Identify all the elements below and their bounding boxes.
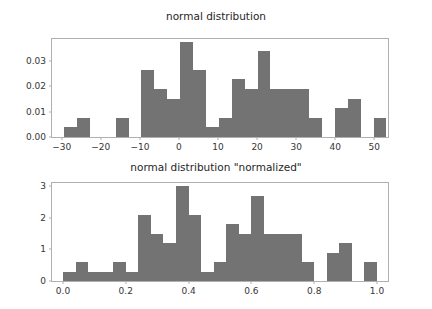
histogram-bar bbox=[245, 89, 258, 137]
x-tick-label: 0.8 bbox=[307, 286, 321, 296]
y-tick-mark bbox=[49, 249, 52, 250]
histogram-bar bbox=[76, 262, 89, 281]
histogram-bar bbox=[64, 127, 77, 137]
x-tick-label: −10 bbox=[130, 142, 149, 152]
histogram-bar bbox=[283, 89, 296, 137]
x-tick-mark bbox=[251, 281, 252, 284]
y-tick-label: 0 bbox=[40, 276, 46, 286]
x-tick-mark bbox=[188, 281, 189, 284]
histogram-bar bbox=[154, 89, 167, 137]
histogram-bar bbox=[277, 234, 290, 281]
histogram-bar bbox=[206, 127, 219, 137]
y-tick-mark bbox=[49, 60, 52, 61]
histogram-bar bbox=[327, 253, 340, 281]
x-tick-label: 30 bbox=[290, 142, 301, 152]
histogram-bar bbox=[335, 108, 348, 137]
histogram-bar bbox=[226, 224, 239, 281]
x-tick-mark bbox=[178, 137, 179, 140]
chart-title-bottom: normal distribution "normalized" bbox=[0, 161, 432, 173]
histogram-bar bbox=[258, 51, 271, 137]
x-tick-mark bbox=[314, 281, 315, 284]
x-tick-label: 0.0 bbox=[56, 286, 70, 296]
histogram-bar bbox=[189, 215, 202, 281]
x-tick-label: 0.6 bbox=[244, 286, 258, 296]
histogram-figure: normal distribution 0.000.010.020.03 −30… bbox=[0, 0, 432, 309]
x-tick-label: 0 bbox=[176, 142, 182, 152]
plot-area-top bbox=[52, 39, 388, 137]
x-tick-label: 40 bbox=[330, 142, 341, 152]
histogram-bar bbox=[232, 79, 245, 137]
histogram-bar bbox=[270, 89, 283, 137]
x-tick-mark bbox=[296, 137, 297, 140]
histogram-bar bbox=[101, 272, 114, 281]
x-tick-mark bbox=[61, 137, 62, 140]
histogram-bar bbox=[374, 118, 387, 137]
histogram-bar bbox=[302, 262, 315, 281]
x-tick-label: 10 bbox=[212, 142, 223, 152]
histogram-bar bbox=[88, 272, 101, 281]
histogram-bar bbox=[289, 234, 302, 281]
x-tick-label: 20 bbox=[251, 142, 262, 152]
histogram-bar bbox=[239, 234, 252, 281]
histogram-bars-bottom bbox=[52, 183, 388, 281]
x-tick-mark bbox=[139, 137, 140, 140]
plot-axes-top: 0.000.010.020.03 −30−20−1001020304050 bbox=[51, 38, 389, 138]
chart-title-top: normal distribution bbox=[0, 10, 432, 22]
x-tick-mark bbox=[377, 281, 378, 284]
chart-panel-bottom: normal distribution "normalized" 0123 0.… bbox=[0, 155, 432, 309]
y-tick-label: 0.00 bbox=[26, 132, 46, 142]
y-tick-label: 1 bbox=[40, 244, 46, 254]
histogram-bar bbox=[126, 272, 139, 281]
y-tick-mark bbox=[49, 281, 52, 282]
y-tick-label: 0.02 bbox=[26, 81, 46, 91]
x-tick-mark bbox=[374, 137, 375, 140]
x-tick-label: −30 bbox=[52, 142, 71, 152]
histogram-bar bbox=[193, 70, 206, 137]
y-tick-mark bbox=[49, 137, 52, 138]
plot-area-bottom bbox=[52, 183, 388, 281]
histogram-bar bbox=[151, 234, 164, 281]
histogram-bar bbox=[141, 70, 154, 137]
histogram-bar bbox=[77, 118, 90, 137]
x-tick-label: 0.4 bbox=[181, 286, 195, 296]
histogram-bar bbox=[63, 272, 76, 281]
x-tick-mark bbox=[125, 281, 126, 284]
histogram-bars-top bbox=[52, 39, 388, 137]
x-tick-mark bbox=[335, 137, 336, 140]
x-tick-label: −20 bbox=[91, 142, 110, 152]
histogram-bar bbox=[219, 118, 232, 137]
histogram-bar bbox=[163, 243, 176, 281]
histogram-bar bbox=[176, 186, 189, 281]
x-tick-mark bbox=[257, 137, 258, 140]
histogram-bar bbox=[309, 118, 322, 137]
histogram-bar bbox=[113, 262, 126, 281]
histogram-bar bbox=[348, 99, 361, 137]
histogram-bar bbox=[201, 272, 214, 281]
histogram-bar bbox=[251, 196, 264, 281]
y-tick-mark bbox=[49, 217, 52, 218]
histogram-bar bbox=[339, 243, 352, 281]
x-tick-label: 50 bbox=[369, 142, 380, 152]
x-tick-label: 0.2 bbox=[119, 286, 133, 296]
histogram-bar bbox=[116, 118, 129, 137]
histogram-bar bbox=[214, 262, 227, 281]
x-tick-label: 1.0 bbox=[370, 286, 384, 296]
x-tick-mark bbox=[62, 281, 63, 284]
x-tick-mark bbox=[218, 137, 219, 140]
histogram-bar bbox=[180, 42, 193, 137]
y-tick-mark bbox=[49, 111, 52, 112]
chart-panel-top: normal distribution 0.000.010.020.03 −30… bbox=[0, 0, 432, 155]
histogram-bar bbox=[138, 215, 151, 281]
histogram-bar bbox=[264, 234, 277, 281]
x-tick-mark bbox=[100, 137, 101, 140]
plot-axes-bottom: 0123 0.00.20.40.60.81.0 bbox=[51, 182, 389, 282]
y-tick-label: 3 bbox=[40, 181, 46, 191]
y-tick-mark bbox=[49, 86, 52, 87]
histogram-bar bbox=[364, 262, 377, 281]
histogram-bar bbox=[296, 89, 309, 137]
histogram-bar bbox=[167, 99, 180, 137]
y-tick-label: 0.01 bbox=[26, 107, 46, 117]
y-tick-label: 2 bbox=[40, 213, 46, 223]
y-tick-label: 0.03 bbox=[26, 56, 46, 66]
y-tick-mark bbox=[49, 186, 52, 187]
